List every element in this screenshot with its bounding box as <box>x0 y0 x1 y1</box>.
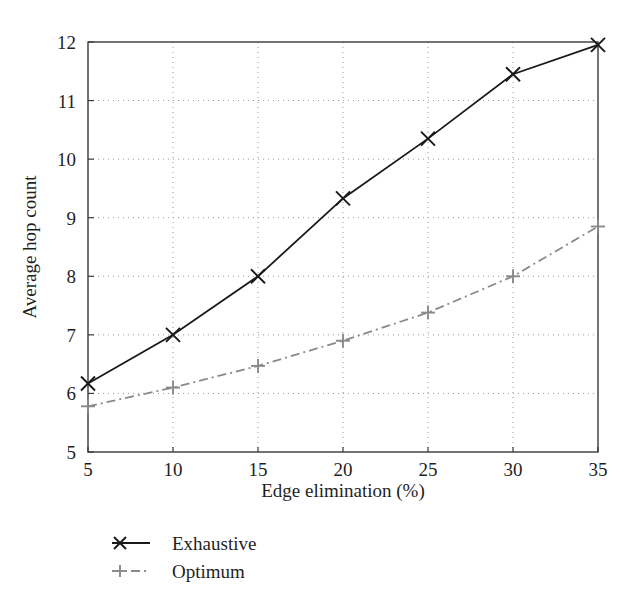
x-tick-label: 35 <box>589 459 608 480</box>
y-tick-label: 5 <box>67 442 77 463</box>
legend-label: Optimum <box>172 561 245 582</box>
y-axis-title: Average hop count <box>19 175 40 319</box>
x-tick-label: 30 <box>504 459 523 480</box>
x-tick-label: 20 <box>334 459 353 480</box>
chart-figure: 5101520253035 56789101112 Edge eliminati… <box>0 0 635 590</box>
y-tick-label: 10 <box>57 149 76 170</box>
chart-background <box>0 0 635 590</box>
x-tick-label: 15 <box>249 459 268 480</box>
x-tick-label: 25 <box>419 459 438 480</box>
y-tick-label: 8 <box>67 266 77 287</box>
legend-label: Exhaustive <box>172 533 256 554</box>
y-tick-label: 7 <box>67 325 77 346</box>
y-tick-label: 12 <box>57 32 76 53</box>
y-tick-label: 6 <box>67 383 77 404</box>
x-tick-label: 10 <box>164 459 183 480</box>
line-chart: 5101520253035 56789101112 Edge eliminati… <box>0 0 635 590</box>
x-tick-label: 5 <box>83 459 93 480</box>
y-tick-label: 9 <box>67 208 77 229</box>
x-axis-title: Edge elimination (%) <box>261 480 425 502</box>
y-tick-label: 11 <box>58 91 76 112</box>
